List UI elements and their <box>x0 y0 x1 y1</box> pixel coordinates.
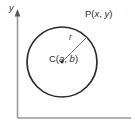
circle-diagram-figure: y P(x, y) C(a, b) r <box>0 0 135 136</box>
point-p-prefix: P( <box>85 8 95 19</box>
y-axis-label: y <box>9 4 14 13</box>
center-c-suffix: ) <box>75 53 78 64</box>
point-p-suffix: ) <box>109 8 112 19</box>
center-c-prefix: C( <box>49 53 59 64</box>
radius-label: r <box>69 33 72 42</box>
y-axis-arrow-icon <box>15 9 21 17</box>
diagram-canvas <box>0 0 135 136</box>
point-p-label: P(x, y) <box>85 9 112 19</box>
center-c-label: C(a, b) <box>49 54 78 64</box>
